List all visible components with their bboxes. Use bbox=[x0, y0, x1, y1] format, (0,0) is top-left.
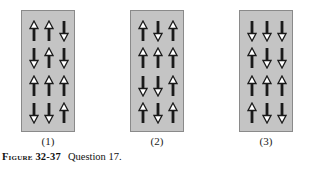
arrow-up-icon bbox=[275, 72, 290, 100]
arrow-up-icon bbox=[26, 17, 41, 45]
arrow-down-icon bbox=[57, 45, 72, 73]
arrow-up-icon bbox=[41, 72, 56, 100]
panel-1 bbox=[21, 10, 75, 132]
arrow-up-icon bbox=[244, 45, 259, 73]
arrow-up-icon bbox=[135, 17, 150, 45]
arrow-up-icon bbox=[57, 100, 72, 128]
arrow-grid bbox=[244, 17, 290, 127]
arrow-up-icon bbox=[26, 72, 41, 100]
arrow-down-icon bbox=[150, 100, 165, 128]
arrow-up-icon bbox=[166, 72, 181, 100]
arrow-down-icon bbox=[259, 17, 274, 45]
figure-caption: Figure 32-37Question 17. bbox=[2, 151, 122, 162]
arrow-down-icon bbox=[259, 45, 274, 73]
arrow-grid bbox=[26, 17, 72, 127]
arrow-down-icon bbox=[57, 17, 72, 45]
arrow-up-icon bbox=[41, 45, 56, 73]
panel-3-label: (3) bbox=[239, 135, 293, 147]
arrow-up-icon bbox=[166, 100, 181, 128]
arrow-down-icon bbox=[26, 45, 41, 73]
arrow-down-icon bbox=[244, 17, 259, 45]
arrow-up-icon bbox=[259, 72, 274, 100]
arrow-up-icon bbox=[166, 17, 181, 45]
arrow-up-icon bbox=[135, 45, 150, 73]
arrow-down-icon bbox=[26, 100, 41, 128]
panel-3 bbox=[239, 10, 293, 132]
panel-1-label: (1) bbox=[21, 135, 75, 147]
arrow-down-icon bbox=[275, 45, 290, 73]
arrow-down-icon bbox=[150, 17, 165, 45]
arrow-up-icon bbox=[41, 17, 56, 45]
arrow-up-icon bbox=[166, 45, 181, 73]
arrow-up-icon bbox=[244, 72, 259, 100]
arrow-down-icon bbox=[41, 100, 56, 128]
arrow-up-icon bbox=[135, 100, 150, 128]
arrow-down-icon bbox=[259, 100, 274, 128]
panel-2-label: (2) bbox=[130, 135, 184, 147]
arrow-down-icon bbox=[135, 72, 150, 100]
arrow-down-icon bbox=[275, 100, 290, 128]
arrow-down-icon bbox=[150, 72, 165, 100]
arrow-up-icon bbox=[150, 45, 165, 73]
arrow-up-icon bbox=[57, 72, 72, 100]
arrow-down-icon bbox=[275, 17, 290, 45]
arrow-grid bbox=[135, 17, 181, 127]
caption-text: Question 17. bbox=[68, 151, 122, 162]
arrow-up-icon bbox=[244, 100, 259, 128]
figure-number: Figure 32-37 bbox=[2, 151, 61, 162]
panel-2 bbox=[130, 10, 184, 132]
